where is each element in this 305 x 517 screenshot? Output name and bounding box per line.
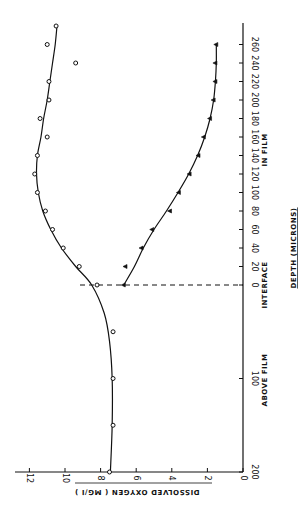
circle-data-point bbox=[47, 80, 51, 84]
depth-tick-label: 240 bbox=[250, 55, 259, 70]
depth-tick-label: 100 bbox=[250, 185, 259, 200]
do-tick-label: 6 bbox=[132, 475, 141, 480]
depth-tick-label: 100 bbox=[250, 371, 259, 386]
depth-tick-label: 40 bbox=[250, 243, 259, 253]
depth-tick-label: 80 bbox=[250, 206, 259, 216]
triangle-data-point bbox=[168, 209, 172, 213]
circle-data-point bbox=[54, 24, 58, 28]
depth-tick-label: 260 bbox=[250, 37, 259, 52]
do-tick-label: 12 bbox=[25, 473, 34, 483]
circle-data-point bbox=[35, 191, 39, 195]
depth-tick-label: 60 bbox=[250, 224, 259, 234]
depth-tick-label: 0 bbox=[250, 282, 259, 287]
depth-axis-title: DEPTH (MICRONS) bbox=[290, 207, 298, 288]
circle-data-point bbox=[108, 470, 112, 474]
triangles-fit-curve bbox=[124, 45, 217, 286]
circle-data-point bbox=[74, 61, 78, 65]
depth-tick-label: 180 bbox=[250, 111, 259, 126]
axis-labels: IN FILM INTERFACE ABOVE FILM DEPTH (MICR… bbox=[74, 133, 298, 496]
do-axis-title: DISSOLVED OXYGEN ( MG/I ) bbox=[74, 488, 199, 496]
region-label-in-film: IN FILM bbox=[261, 133, 269, 166]
triangle-data-point bbox=[139, 246, 143, 250]
circle-data-point bbox=[111, 377, 115, 381]
depth-tick-label: 220 bbox=[250, 74, 259, 89]
triangle-data-point bbox=[123, 265, 127, 269]
do-tick-label: 0 bbox=[239, 475, 248, 480]
circles-fit-curve bbox=[36, 26, 112, 472]
dissolved-oxygen-chart: 0204060801001201401601802002202402602001… bbox=[0, 0, 305, 517]
region-label-interface: INTERFACE bbox=[261, 261, 269, 308]
depth-tick-label: 120 bbox=[250, 166, 259, 181]
triangle-data-point bbox=[201, 135, 205, 139]
circle-data-point bbox=[45, 135, 49, 139]
data-markers bbox=[33, 24, 218, 474]
circle-data-point bbox=[45, 43, 49, 47]
axes: 0204060801001201401601802002202402602001… bbox=[15, 23, 259, 483]
do-tick-label: 10 bbox=[61, 473, 70, 483]
triangle-data-point bbox=[150, 228, 154, 232]
circle-data-point bbox=[43, 209, 47, 213]
depth-tick-label: 140 bbox=[250, 148, 259, 163]
circle-data-point bbox=[111, 423, 115, 427]
circle-data-point bbox=[35, 154, 39, 158]
triangle-data-point bbox=[121, 283, 125, 287]
depth-tick-label: 160 bbox=[250, 129, 259, 144]
circle-data-point bbox=[95, 283, 99, 287]
triangle-data-point bbox=[213, 61, 217, 65]
do-tick-label: 8 bbox=[96, 475, 105, 480]
depth-tick-label: 200 bbox=[250, 92, 259, 107]
circle-data-point bbox=[51, 228, 55, 232]
depth-tick-label: 200 bbox=[250, 464, 259, 479]
circle-data-point bbox=[61, 246, 65, 250]
do-tick-label: 2 bbox=[203, 475, 212, 480]
circle-data-point bbox=[38, 117, 42, 121]
depth-tick-label: 20 bbox=[250, 261, 259, 271]
circle-data-point bbox=[77, 265, 81, 269]
do-tick-label: 4 bbox=[167, 475, 176, 480]
region-label-above-film: ABOVE FILM bbox=[261, 354, 269, 407]
circle-data-point bbox=[47, 98, 51, 102]
circle-data-point bbox=[111, 330, 115, 334]
circle-data-point bbox=[33, 172, 37, 176]
